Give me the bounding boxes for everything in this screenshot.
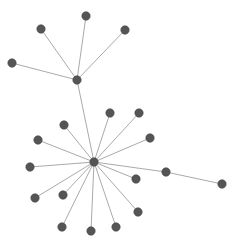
graph-node-b12 bbox=[31, 194, 39, 202]
graph-node-t2 bbox=[37, 25, 45, 33]
graph-node-t3 bbox=[82, 12, 90, 20]
graph-node-hub-bottom bbox=[90, 158, 98, 166]
graph-node-b4 bbox=[162, 168, 170, 176]
graph-node-b3 bbox=[146, 134, 154, 142]
graph-node-b8 bbox=[112, 223, 120, 231]
graph-node-b10 bbox=[58, 223, 66, 231]
graph-node-b6 bbox=[132, 175, 140, 183]
graph-node-b5 bbox=[218, 180, 226, 188]
graph-node-b11 bbox=[59, 191, 67, 199]
graph-node-b7 bbox=[134, 208, 142, 216]
graph-node-hub-top bbox=[73, 76, 81, 84]
graph-node-b15 bbox=[60, 121, 68, 129]
graph-node-t1 bbox=[8, 59, 16, 67]
graph-node-b9 bbox=[87, 227, 95, 235]
graph-node-t4 bbox=[121, 26, 129, 34]
graph-node-b1 bbox=[106, 109, 114, 117]
network-graph bbox=[0, 0, 239, 247]
graph-background bbox=[0, 0, 239, 247]
graph-node-b14 bbox=[34, 136, 42, 144]
graph-node-b2 bbox=[135, 109, 143, 117]
graph-node-b13 bbox=[26, 163, 34, 171]
